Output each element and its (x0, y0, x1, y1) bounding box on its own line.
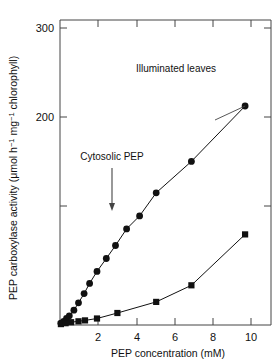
illuminated-leaves-label: Illuminated leaves (136, 63, 216, 74)
data-point-square (75, 318, 81, 324)
data-point-circle (123, 226, 130, 233)
data-point-square (153, 299, 159, 305)
data-point-circle (136, 213, 143, 220)
x-tick-label-2: 2 (95, 331, 101, 343)
y-tick-label-200: 200 (36, 111, 54, 123)
data-point-circle (86, 280, 93, 287)
y-tick-label-300: 300 (36, 22, 54, 34)
series-line (61, 234, 245, 324)
x-axis-title: PEP concentration (mM) (111, 347, 225, 359)
y-axis-title-part-b: mg (7, 121, 19, 139)
illuminated-leaves-leader-line (215, 106, 245, 120)
series-line (61, 106, 245, 323)
data-point-square (63, 320, 69, 326)
y-axis-title-part-a: PEP carboxylase activity (μmol h (7, 147, 19, 300)
series-illuminated-leaves (58, 103, 249, 327)
data-point-circle (66, 312, 73, 319)
data-point-square (94, 315, 100, 321)
series-layer (58, 103, 249, 328)
cytosolic-pep-arrow-icon (109, 168, 115, 211)
data-point-square (68, 319, 74, 325)
data-point-square (114, 310, 120, 316)
data-point-circle (103, 255, 110, 262)
data-point-circle (153, 189, 160, 196)
data-point-square (82, 317, 88, 323)
x-tick-label-10: 10 (245, 331, 257, 343)
y-axis-title-part-c: chlorophyll) (7, 56, 19, 113)
series-cytosolic-pep (58, 231, 248, 327)
y-axis-title-sup-1: −1 (7, 139, 16, 148)
x-tick-label-4: 4 (134, 331, 140, 343)
data-point-circle (81, 290, 88, 297)
data-point-circle (188, 158, 195, 165)
data-point-circle (94, 268, 101, 275)
y-axis-title: PEP carboxylase activity (μmol h−1 mg−1 … (7, 56, 19, 300)
chart-figure: 300 200 2 4 6 8 10 PEP concentration (mM… (0, 0, 279, 363)
data-point-circle (112, 242, 119, 249)
data-point-circle (75, 299, 82, 306)
data-point-circle (71, 307, 78, 314)
y-axis-ticks (60, 28, 271, 206)
cytosolic-pep-label: Cytosolic PEP (80, 151, 144, 162)
x-tick-label-6: 6 (172, 331, 178, 343)
y-axis-title-sup-2: −1 (7, 112, 16, 121)
pep-carboxylase-activity-chart: 300 200 2 4 6 8 10 PEP concentration (mM… (0, 0, 279, 363)
x-tick-label-8: 8 (210, 331, 216, 343)
data-point-square (188, 282, 194, 288)
data-point-square (242, 231, 248, 237)
